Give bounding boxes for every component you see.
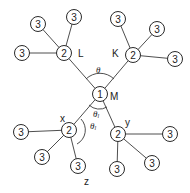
label-K: K [112,48,119,59]
node-L1: 3 [31,17,46,32]
theta-l-lower-label: θl [90,121,96,131]
node-y3: 3 [110,162,125,177]
node-L: 2 [57,46,72,61]
node-value: 3 [19,48,25,59]
tree-diagram: 12222333333333333 L K M x y z θ θl θl [0,0,190,193]
theta-arc-bottom [89,105,107,109]
node-L2: 3 [67,10,82,25]
node-x1: 3 [14,125,29,140]
node-x2: 3 [35,150,50,165]
node-value: 2 [61,48,67,59]
node-y1: 3 [163,127,178,142]
node-value: 3 [115,14,121,25]
label-L: L [78,48,84,59]
node-value: 3 [75,161,81,172]
label-x: x [60,113,65,124]
node-value: 3 [172,54,178,65]
label-y: y [125,117,130,128]
theta-top-label: θ [96,65,101,75]
theta-arc-x [77,119,85,144]
node-value: 3 [114,164,120,175]
node-value: 3 [18,127,24,138]
node-M: 1 [93,87,108,102]
node-value: 3 [39,152,45,163]
node-value: 2 [115,129,121,140]
node-value: 3 [71,12,77,23]
node-value: 2 [66,125,72,136]
node-K3: 3 [168,52,183,67]
node-value: 3 [35,19,41,30]
node-x3: 3 [71,159,86,174]
theta-l-upper-label: θl [93,109,99,119]
label-z: z [84,176,89,187]
node-L3: 3 [15,46,30,61]
node-value: 3 [167,129,173,140]
nodes: 12222333333333333 [14,10,183,177]
node-value: 3 [154,24,160,35]
node-value: 3 [149,158,155,169]
node-K1: 3 [111,12,126,27]
node-K2: 3 [150,22,165,37]
node-K: 2 [126,48,141,63]
edge-M-L [64,53,100,94]
node-value: 2 [130,50,136,61]
node-y: 2 [111,127,126,142]
node-y2: 3 [145,156,160,171]
node-value: 1 [97,89,103,100]
node-x: 2 [62,123,77,138]
label-M: M [110,91,118,102]
